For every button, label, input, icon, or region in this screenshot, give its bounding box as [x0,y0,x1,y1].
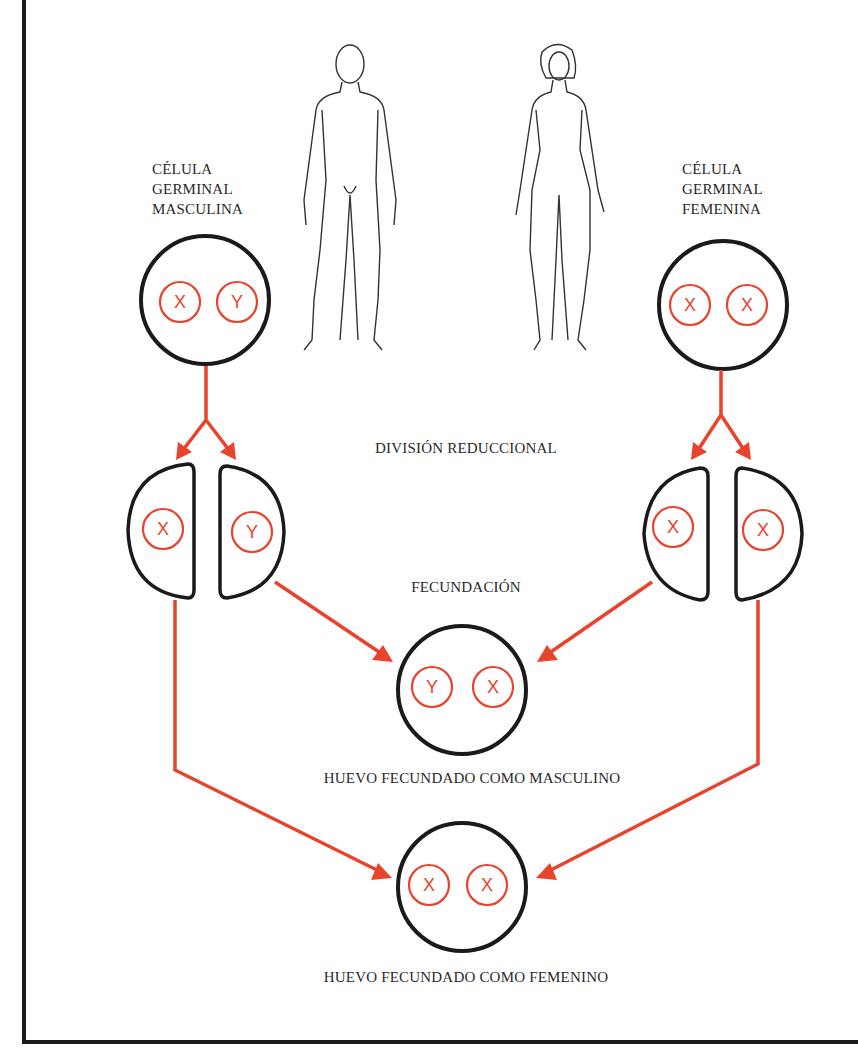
male-gamete-y: Y [220,466,284,598]
svg-text:X: X [487,677,499,697]
arrow-x-to-male-zygote [545,582,652,656]
male-figure-icon [304,45,396,350]
svg-text:X: X [667,517,679,537]
label-line: CÉLULA [152,159,243,179]
female-germ-cell-label: CÉLULA GERMINAL FEMENINA [682,159,763,219]
arrow-x-male-to-female-zygote [175,600,383,873]
arrow-y-to-male-zygote [275,582,385,656]
male-germ-cell-label: CÉLULA GERMINAL MASCULINA [152,159,243,219]
svg-text:X: X [684,295,696,315]
svg-text:X: X [423,875,435,895]
arrow-x-female-to-female-zygote [545,600,758,873]
svg-text:Y: Y [246,522,258,542]
female-germ-cell: X X [659,241,787,369]
male-gamete-x: X [128,464,194,598]
label-line: CÉLULA [682,159,763,179]
svg-text:Y: Y [426,677,438,697]
svg-text:X: X [157,519,169,539]
svg-text:X: X [481,875,493,895]
label-line: MASCULINA [152,199,243,219]
split-arrow-female [698,370,744,450]
reduction-division-label: DIVISIÓN REDUCCIONAL [375,438,557,458]
female-gamete-x-right: X [736,468,802,600]
male-zygote: Y X [398,626,526,754]
label-line: FEMENINA [682,199,763,219]
female-gamete-x-left: X [644,468,708,600]
split-arrow-male [183,366,229,450]
male-zygote-label: HUEVO FECUNDADO COMO MASCULINO [324,768,620,788]
svg-text:X: X [174,292,186,312]
fertilization-label: FECUNDACIÓN [411,577,521,597]
female-zygote-label: HUEVO FECUNDADO COMO FEMENINO [324,967,609,987]
svg-text:X: X [757,520,769,540]
label-line: GERMINAL [682,179,763,199]
label-line: GERMINAL [152,179,243,199]
svg-text:X: X [741,295,753,315]
male-germ-cell: X Y [141,236,269,364]
female-zygote: X X [398,823,526,951]
svg-text:Y: Y [231,292,243,312]
female-figure-icon [516,44,604,350]
